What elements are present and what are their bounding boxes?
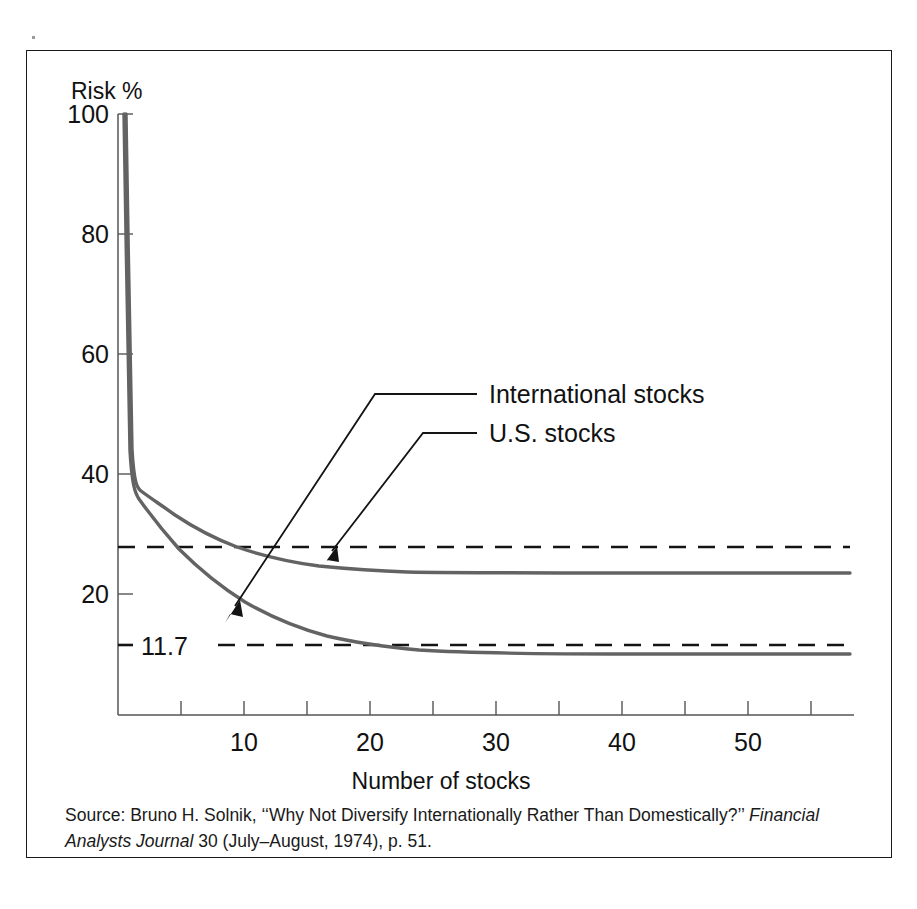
x-axis-tick-labels: 10 20 30 40 50: [230, 728, 762, 756]
y-axis-tick-labels: 100 80 60 40 20: [67, 100, 109, 608]
x-axis-ticks: [181, 701, 811, 715]
x-tick-label-10: 10: [230, 728, 258, 756]
annotation-label-international-stocks: International stocks: [489, 380, 704, 408]
y-tick-label-40: 40: [81, 460, 109, 488]
y-tick-label-60: 60: [81, 340, 109, 368]
page-speck: [32, 36, 35, 39]
curve-us-stocks: [126, 114, 850, 573]
x-tick-label-20: 20: [356, 728, 384, 756]
y-tick-label-20: 20: [81, 580, 109, 608]
y-tick-label-80: 80: [81, 220, 109, 248]
annotation-us-stocks: U.S. stocks: [322, 419, 615, 567]
reference-label-11-7: 11.7: [141, 632, 188, 660]
annotation-label-us-stocks: U.S. stocks: [489, 419, 615, 447]
y-tick-label-100: 100: [67, 100, 109, 128]
annotation-international-stocks: International stocks: [225, 380, 704, 623]
x-tick-label-30: 30: [482, 728, 510, 756]
figure-frame: Risk % 100 80 60 40 20: [26, 50, 892, 858]
x-axis-title: Number of stocks: [352, 768, 531, 791]
x-tick-label-40: 40: [608, 728, 636, 756]
source-note-suffix: 30 (July–August, 1974), p. 51.: [193, 831, 431, 851]
source-note-prefix: Source: Bruno H. Solnik, ‘‘Why Not Diver…: [65, 805, 749, 825]
risk-diversification-chart: Risk % 100 80 60 40 20: [27, 51, 893, 791]
x-tick-label-50: 50: [734, 728, 762, 756]
source-note: Source: Bruno H. Solnik, ‘‘Why Not Diver…: [65, 802, 855, 855]
